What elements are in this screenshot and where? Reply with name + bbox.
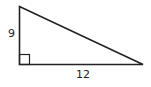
triangle	[20, 7, 144, 65]
horizontal-leg-label: 12	[76, 68, 90, 81]
vertical-leg-label: 9	[8, 27, 15, 40]
right-angle-marker	[20, 55, 30, 65]
right-triangle-diagram: 9 12	[0, 0, 151, 87]
